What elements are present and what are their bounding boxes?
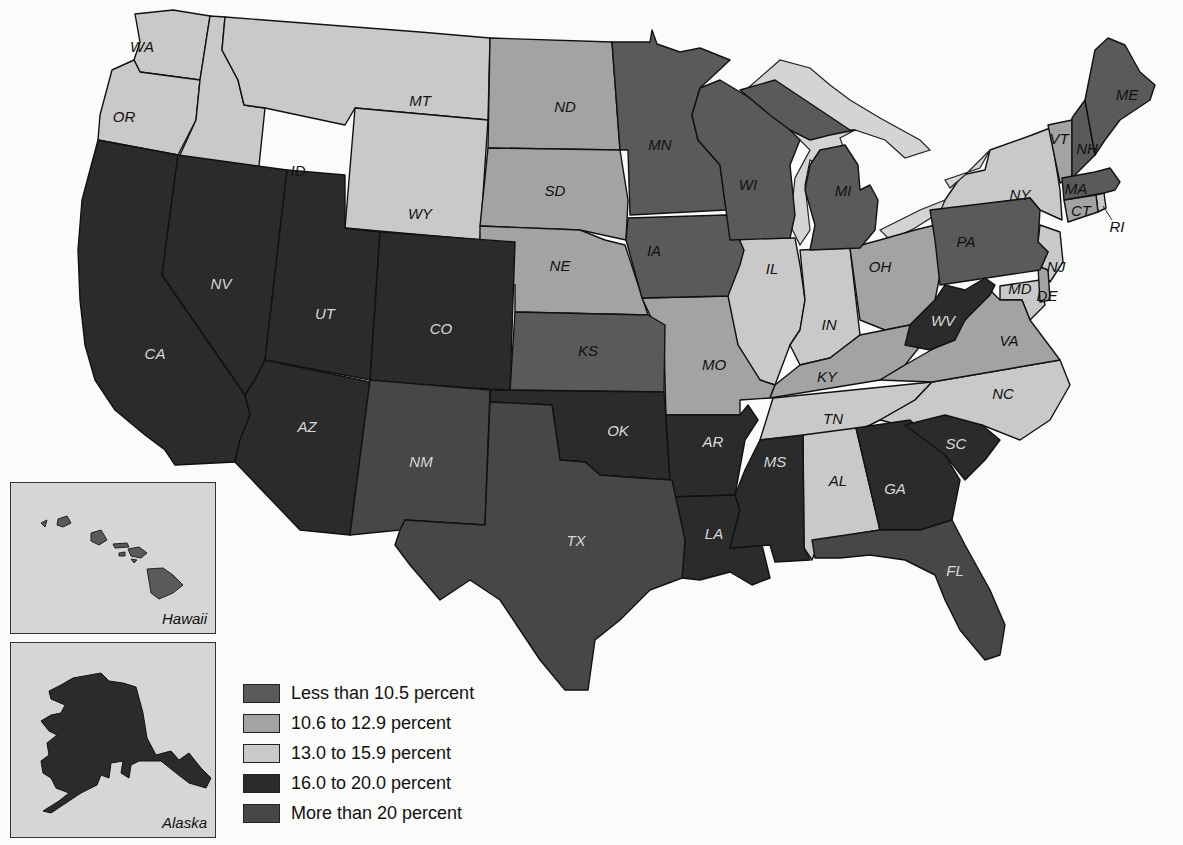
label-ND: ND: [554, 98, 576, 115]
legend-item: 16.0 to 20.0 percent: [243, 768, 474, 798]
alaska-inset: Alaska: [10, 642, 216, 838]
label-CT: CT: [1071, 202, 1093, 219]
map-legend: Less than 10.5 percent 10.6 to 12.9 perc…: [243, 678, 474, 828]
label-AZ: AZ: [296, 418, 317, 435]
label-TX: TX: [566, 532, 586, 549]
hawaii-label: Hawaii: [162, 610, 207, 627]
alaska-label: Alaska: [162, 814, 207, 831]
legend-label: Less than 10.5 percent: [291, 683, 474, 704]
legend-swatch: [243, 684, 280, 703]
label-TN: TN: [823, 410, 843, 427]
state-CO: [370, 232, 515, 390]
label-GA: GA: [884, 480, 906, 497]
legend-swatch: [243, 774, 280, 793]
legend-item: 10.6 to 12.9 percent: [243, 708, 474, 738]
legend-swatch: [243, 744, 280, 763]
label-MO: MO: [702, 356, 726, 373]
label-CO: CO: [430, 320, 453, 337]
label-MA: MA: [1065, 180, 1088, 197]
legend-label: 10.6 to 12.9 percent: [291, 713, 451, 734]
state-ND: [488, 38, 620, 150]
label-IN: IN: [822, 316, 837, 333]
label-SD: SD: [545, 182, 566, 199]
label-NH: NH: [1076, 140, 1098, 157]
label-SC: SC: [946, 435, 967, 452]
label-WI: WI: [739, 176, 757, 193]
label-VA: VA: [999, 332, 1018, 349]
label-NM: NM: [409, 453, 433, 470]
label-NE: NE: [550, 257, 572, 274]
legend-label: More than 20 percent: [291, 803, 462, 824]
legend-item: 13.0 to 15.9 percent: [243, 738, 474, 768]
ri-leader-line: [1103, 206, 1112, 220]
legend-item: Less than 10.5 percent: [243, 678, 474, 708]
label-NY: NY: [1010, 186, 1032, 203]
label-WA: WA: [130, 38, 154, 55]
label-MI: MI: [835, 182, 852, 199]
label-MS: MS: [764, 453, 787, 470]
state-AZ: [235, 360, 370, 535]
label-AL: AL: [828, 472, 847, 489]
label-OK: OK: [607, 422, 630, 439]
label-NJ: NJ: [1047, 258, 1066, 275]
label-NV: NV: [211, 275, 234, 292]
label-CA: CA: [145, 345, 166, 362]
legend-swatch: [243, 714, 280, 733]
label-KS: KS: [578, 342, 598, 359]
label-IA: IA: [647, 242, 661, 259]
state-PA: [930, 198, 1048, 285]
label-MT: MT: [409, 92, 432, 109]
label-WV: WV: [931, 312, 957, 329]
label-RI: RI: [1110, 218, 1125, 235]
label-UT: UT: [315, 305, 337, 322]
label-OR: OR: [113, 108, 136, 125]
label-PA: PA: [957, 233, 976, 250]
label-OH: OH: [869, 258, 892, 275]
label-LA: LA: [705, 525, 723, 542]
label-ID: ID: [291, 162, 306, 179]
label-DE: DE: [1037, 287, 1059, 304]
label-IL: IL: [766, 260, 779, 277]
label-AR: AR: [702, 433, 724, 450]
label-WY: WY: [408, 205, 433, 222]
alaska-shape: [11, 643, 217, 839]
label-MD: MD: [1008, 280, 1031, 297]
label-MN: MN: [648, 136, 671, 153]
hawaii-inset: Hawaii: [10, 482, 216, 634]
state-FL: [812, 520, 1005, 660]
legend-item: More than 20 percent: [243, 798, 474, 828]
legend-swatch: [243, 804, 280, 823]
label-FL: FL: [946, 562, 964, 579]
legend-label: 16.0 to 20.0 percent: [291, 773, 451, 794]
legend-label: 13.0 to 15.9 percent: [291, 743, 451, 764]
label-KY: KY: [817, 368, 838, 385]
label-NC: NC: [992, 385, 1014, 402]
state-IA: [626, 215, 744, 298]
label-VT: VT: [1049, 130, 1070, 147]
label-ME: ME: [1116, 86, 1139, 103]
